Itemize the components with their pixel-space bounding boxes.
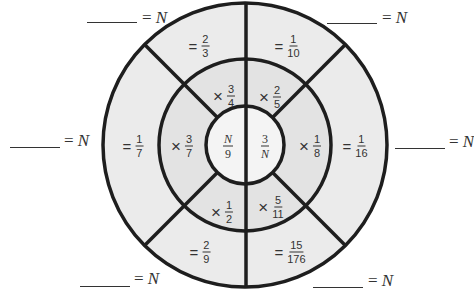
multiply-operator: × [259,89,269,106]
fraction: 2 5 [273,85,281,110]
fraction: 3 N [261,133,269,160]
middle-bottom-left-multiplier: × 1 2 [211,200,233,225]
middle-bottom-right-multiplier: × 5 11 [258,195,283,220]
outer-top-right-value: = 1 10 [274,34,299,59]
multiply-operator: × [299,138,309,155]
numerator: 2 [202,240,210,253]
answer-blank-left[interactable] [10,147,60,148]
inner-right-value: 3 N [261,133,269,160]
inner-left-value: N 9 [223,133,233,160]
answer-label-right: = N [449,133,474,150]
fraction: 3 4 [227,84,235,109]
denominator: 8 [314,147,320,159]
fraction: 2 3 [201,34,209,59]
numerator: 2 [201,34,209,47]
answer-blank-bottom-right[interactable] [313,287,363,288]
numerator: 3 [185,134,193,147]
variable-n: N [382,271,393,290]
equals-operator: = [189,39,198,54]
outer-bottom-left-value: = 2 9 [190,240,211,265]
denominator: 2 [226,213,232,225]
denominator: N [261,147,269,160]
numerator: 5 [274,195,282,208]
multiply-operator: × [258,199,268,216]
denominator: 7 [186,147,192,159]
outer-left-value: = 1 7 [123,134,144,159]
answer-blank-top-left[interactable] [87,22,137,23]
equals-sign: = [142,8,152,27]
middle-top-left-multiplier: × 3 4 [213,84,235,109]
multiply-operator: × [211,204,221,221]
variable-n: N [148,269,159,288]
numerator: 3 [227,84,235,97]
answer-label-bottom-right: = N [368,272,393,289]
denominator: 176 [287,253,305,265]
fraction: 5 11 [272,195,283,220]
fraction: 1 10 [287,34,299,59]
multiply-operator: × [171,138,181,155]
equals-sign: = [134,269,144,288]
answer-label-top-left: = N [142,9,167,26]
middle-top-right-multiplier: × 2 5 [259,85,281,110]
answer-label-top-right: = N [382,9,407,26]
outer-bottom-right-value: = 15 176 [274,240,305,265]
numerator: 1 [135,134,143,147]
numerator: 3 [261,133,269,147]
variable-n: N [463,132,474,151]
numerator: 1 [289,34,297,47]
denominator: 16 [355,147,367,159]
numerator: N [223,133,233,147]
denominator: 4 [228,97,234,109]
denominator: 5 [274,98,280,110]
fraction: 1 7 [135,134,143,159]
outer-top-left-value: = 2 3 [189,34,210,59]
equals-operator: = [342,139,351,154]
fraction: 1 8 [313,134,321,159]
equals-operator: = [274,39,283,54]
equals-sign: = [64,131,74,150]
multiply-operator: × [213,88,223,105]
numerator: 15 [289,240,303,253]
answer-blank-bottom-left[interactable] [80,286,130,287]
fraction: N 9 [223,133,233,160]
equals-operator: = [190,245,199,260]
denominator: 10 [287,47,299,59]
fraction: 15 176 [287,240,305,265]
fraction: 3 7 [185,134,193,159]
denominator: 7 [136,147,142,159]
fraction: 1 2 [225,200,233,225]
equals-operator: = [123,139,132,154]
answer-label-bottom-left: = N [134,270,159,287]
answer-blank-right[interactable] [395,148,445,149]
numerator: 2 [273,85,281,98]
variable-n: N [156,8,167,27]
answer-label-left: = N [64,132,89,149]
denominator: 11 [272,208,283,220]
fraction: 1 16 [355,134,367,159]
denominator: 9 [225,147,231,160]
outer-right-value: = 1 16 [342,134,367,159]
denominator: 9 [203,253,209,265]
equals-sign: = [368,271,378,290]
equals-sign: = [449,132,459,151]
denominator: 3 [202,47,208,59]
variable-n: N [396,8,407,27]
answer-blank-top-right[interactable] [327,23,377,24]
equals-sign: = [382,8,392,27]
equals-operator: = [274,245,283,260]
fraction: 2 9 [202,240,210,265]
variable-n: N [78,131,89,150]
numerator: 1 [225,200,233,213]
middle-right-multiplier: × 1 8 [299,134,321,159]
numerator: 1 [313,134,321,147]
middle-left-multiplier: × 3 7 [171,134,193,159]
numerator: 1 [357,134,365,147]
